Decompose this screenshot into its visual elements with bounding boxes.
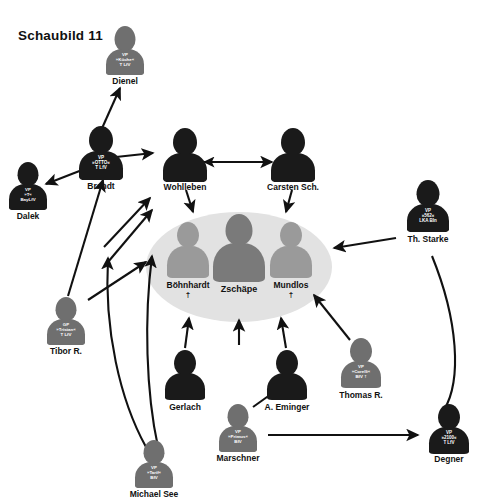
edge-starke-degner [432, 256, 455, 410]
edge-tibor-brandt [68, 180, 103, 296]
page-title: Schaubild 11 [18, 28, 103, 43]
deceased-marker-boehnhardt: † [186, 290, 190, 299]
node-wohlleben[interactable]: Wohlleben [153, 128, 217, 194]
node-gerlach[interactable]: Gerlach [155, 350, 215, 412]
node-label-michael-see: Michael See [130, 489, 179, 499]
node-th-starke[interactable]: VP »562« LKA Bln Th. Starke [396, 180, 460, 246]
person-icon-dienel [97, 26, 153, 74]
node-label-th-starke: Th. Starke [407, 234, 448, 244]
node-marschner[interactable]: VP »Primus« BfV Marschner [206, 404, 270, 466]
node-label-degner: Degner [434, 454, 463, 464]
node-thomas-r[interactable]: VP »Corelli« BfV † Thomas R. [330, 338, 392, 402]
cluster-node-mundlos[interactable]: Mundlos † [258, 222, 324, 298]
node-label-wohlleben: Wohlleben [164, 182, 207, 192]
person-icon-a-eminger [256, 350, 318, 398]
edge-gerlach-cluster [185, 318, 189, 348]
person-icon-th-starke [396, 180, 460, 232]
cluster-label-mundlos: Mundlos [274, 280, 309, 290]
edge-starke-cluster [334, 238, 396, 248]
top-margin [0, 0, 494, 10]
person-icon-thomas-r [330, 338, 392, 388]
person-icon-carsten-sch [259, 128, 327, 180]
node-michael-see[interactable]: VP »Tarif« BfV Michael See [118, 440, 190, 502]
node-label-carsten-sch: Carsten Sch. [267, 182, 319, 192]
node-a-eminger[interactable]: A. Eminger [256, 350, 318, 412]
node-carsten-sch[interactable]: Carsten Sch. [259, 128, 327, 194]
edge-lower-brandt-b [108, 210, 152, 262]
person-icon-tibor-r [38, 297, 94, 345]
deceased-marker-mundlos: † [289, 290, 293, 299]
person-icon-dalek [2, 162, 54, 210]
person-icon-mundlos [258, 222, 324, 278]
person-icon-wohlleben [153, 128, 217, 180]
node-brandt[interactable]: VP »OTTO« T LfV Brandt [70, 126, 132, 194]
diagram-canvas: Schaubild 11 [0, 0, 494, 502]
node-label-tibor-r: Tibor R. [50, 346, 82, 356]
node-label-dienel: Dienel [112, 76, 138, 86]
person-icon-degner [418, 404, 480, 452]
edge-lower-cluster-c [88, 262, 146, 300]
person-icon-marschner [206, 404, 270, 452]
node-label-a-eminger: A. Eminger [265, 402, 310, 412]
node-label-thomas-r: Thomas R. [339, 390, 382, 400]
node-tibor-r[interactable]: GP »Tristan« T LfV Tibor R. [38, 297, 94, 359]
node-label-brandt: Brandt [87, 181, 114, 191]
node-dalek[interactable]: VP »T« BayLfV Dalek [2, 162, 54, 224]
person-icon-michael-see [118, 440, 190, 488]
cluster-label-zschaepe: Zschäpe [221, 284, 258, 294]
node-degner[interactable]: VP »2100« T LfV Degner [418, 404, 480, 466]
node-label-dalek: Dalek [17, 211, 40, 221]
node-label-gerlach: Gerlach [169, 402, 201, 412]
edge-thomasr-cluster [314, 295, 350, 340]
edge-eminger-cluster [281, 318, 286, 348]
node-dienel[interactable]: VP »Küche« T LfV Dienel [97, 26, 153, 88]
node-label-marschner: Marschner [217, 453, 260, 463]
person-icon-brandt [70, 126, 132, 178]
edge-michaelsee-brandt [107, 258, 146, 447]
person-icon-gerlach [155, 350, 215, 398]
edge-lower-brandt-a [104, 198, 150, 247]
